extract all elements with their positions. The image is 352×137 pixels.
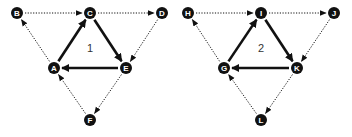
node-label: K: [294, 64, 300, 73]
edge-l-to-g: [229, 75, 257, 114]
node-a: A: [48, 62, 60, 74]
node-d: D: [156, 7, 168, 19]
edge-i-to-k: [265, 20, 292, 62]
node-j: J: [328, 7, 340, 19]
edge-e-to-f: [95, 75, 122, 114]
graph-number-label: 1: [87, 42, 93, 54]
graph-number-label: 2: [258, 42, 264, 54]
node-b: B: [11, 7, 23, 19]
node-label: D: [159, 9, 165, 18]
edge-j-to-k: [301, 20, 329, 62]
edge-k-to-l: [266, 75, 293, 114]
node-label: A: [51, 64, 57, 73]
edge-g-to-i: [228, 20, 256, 62]
graph-1: BCDAEF1: [11, 7, 168, 126]
edge-d-to-e: [130, 20, 157, 62]
edge-a-to-c: [58, 20, 85, 62]
diagram-canvas: BCDAEF1HIJGKL2: [0, 0, 352, 137]
node-label: J: [332, 9, 336, 18]
edge-a-to-b: [21, 20, 49, 62]
node-i: I: [255, 7, 267, 19]
node-label: G: [221, 64, 227, 73]
graph-2: HIJGKL2: [182, 7, 340, 126]
node-label: F: [88, 116, 93, 125]
edge-g-to-h: [192, 20, 219, 62]
node-g: G: [218, 62, 230, 74]
edge-f-to-a: [59, 75, 86, 114]
node-l: L: [255, 114, 267, 126]
node-k: K: [291, 62, 303, 74]
node-e: E: [120, 62, 132, 74]
edge-c-to-e: [94, 20, 121, 62]
node-label: E: [123, 64, 129, 73]
node-label: L: [259, 116, 264, 125]
node-label: H: [185, 9, 191, 18]
node-label: B: [14, 9, 20, 18]
node-h: H: [182, 7, 194, 19]
node-c: C: [84, 7, 96, 19]
node-label: I: [260, 9, 262, 18]
node-f: F: [84, 114, 96, 126]
node-label: C: [87, 9, 93, 18]
